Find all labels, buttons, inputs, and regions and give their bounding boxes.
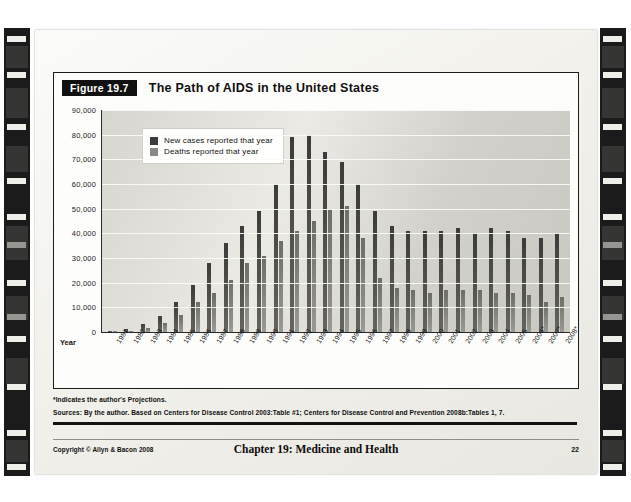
bar-group	[518, 110, 535, 332]
x-axis-tick: 1993	[302, 334, 319, 382]
bar-group	[502, 110, 519, 332]
film-sprocket	[603, 336, 622, 342]
film-texture	[6, 46, 28, 68]
figure-panel: Figure 19.7 The Path of AIDS in the Unit…	[53, 72, 579, 389]
x-axis-tick: 1989	[236, 334, 253, 382]
film-sprocket	[7, 36, 26, 42]
bar-new-cases	[224, 243, 228, 332]
film-sprocket	[7, 336, 26, 342]
film-sprocket	[603, 36, 622, 42]
film-sprocket	[7, 464, 26, 470]
y-axis-tick-label: 0	[92, 328, 96, 337]
x-axis-tick: 2008*	[551, 334, 568, 382]
y-axis-tick-label: 70,000	[72, 155, 96, 164]
legend-item: New cases reported that year	[150, 136, 273, 145]
x-axis-tick: 1998	[385, 334, 402, 382]
film-sprocket	[603, 214, 622, 220]
bar-deaths	[212, 293, 216, 332]
film-texture	[6, 226, 28, 260]
film-sprocket	[7, 280, 26, 286]
film-sprocket	[7, 384, 26, 390]
legend-item: Deaths reported that year	[150, 147, 273, 156]
legend-label: New cases reported that year	[164, 136, 273, 145]
film-sprocket	[7, 214, 26, 220]
bar-deaths	[461, 290, 465, 332]
bar-group	[320, 110, 337, 332]
bar-new-cases	[191, 285, 195, 332]
bar-group	[535, 110, 552, 332]
gridline	[102, 209, 570, 210]
screenshot-root: Figure 19.7 The Path of AIDS in the Unit…	[0, 0, 631, 502]
film-sprocket	[7, 124, 26, 130]
x-axis-tick: 1984	[153, 334, 170, 382]
footnote-projection: *Indicates the author's Projections.	[53, 394, 577, 407]
footnote-sources: Sources: By the author. Based on Centers…	[53, 407, 577, 420]
film-texture	[602, 88, 624, 118]
film-sprocket	[603, 430, 622, 436]
bar-deaths	[378, 278, 382, 332]
y-axis-tick-label: 60,000	[72, 180, 96, 189]
film-texture	[6, 296, 28, 320]
film-sprocket	[603, 464, 622, 470]
film-sprocket	[603, 124, 622, 130]
bar-deaths	[328, 209, 332, 332]
bar-new-cases	[423, 231, 427, 332]
film-texture	[602, 296, 624, 320]
bar-deaths	[245, 263, 249, 332]
film-texture	[602, 358, 624, 384]
gridline	[102, 159, 570, 160]
plot-wrapper: 90,00080,00070,00060,00050,00040,00030,0…	[54, 104, 578, 388]
x-axis-tick: 1999	[402, 334, 419, 382]
bar-new-cases	[439, 231, 443, 332]
bar-deaths	[494, 293, 498, 332]
figure-number-tag: Figure 19.7	[62, 80, 137, 97]
x-axis-tick: 1994	[319, 334, 336, 382]
bar-group	[336, 110, 353, 332]
film-texture	[6, 146, 28, 172]
gridline	[102, 184, 570, 185]
legend-swatch-new-cases	[150, 137, 158, 145]
bar-new-cases	[323, 152, 327, 332]
bar-new-cases	[522, 238, 526, 332]
bar-new-cases	[456, 228, 460, 332]
film-sprocket	[603, 384, 622, 390]
x-axis-tick: 2006*	[518, 334, 535, 382]
figure-header: Figure 19.7 The Path of AIDS in the Unit…	[54, 73, 578, 103]
x-axis-tick: 2004	[485, 334, 502, 382]
bar-deaths	[113, 331, 117, 332]
bar-deaths	[444, 290, 448, 332]
bar-new-cases	[506, 231, 510, 332]
film-texture	[602, 146, 624, 172]
bar-group	[369, 110, 386, 332]
y-axis-tick-label: 30,000	[72, 254, 96, 263]
bar-group	[419, 110, 436, 332]
film-texture	[6, 440, 28, 462]
bar-deaths	[411, 290, 415, 332]
bar-deaths	[129, 331, 133, 332]
x-axis-tick: 1988	[219, 334, 236, 382]
y-axis-tick-label: 50,000	[72, 204, 96, 213]
x-axis-tick: 1986	[186, 334, 203, 382]
bar-deaths	[511, 293, 515, 332]
bar-deaths	[527, 295, 531, 332]
y-axis-tick-label: 90,000	[72, 106, 96, 115]
film-sprocket	[603, 280, 622, 286]
y-axis-tick-label: 80,000	[72, 130, 96, 139]
bar-deaths	[345, 206, 349, 332]
presentation-slide: Figure 19.7 The Path of AIDS in the Unit…	[35, 30, 597, 474]
x-axis-title: Year	[60, 338, 76, 347]
bar-deaths	[395, 288, 399, 332]
legend-swatch-deaths	[150, 148, 158, 156]
film-texture	[602, 440, 624, 462]
x-axis-tick: 2000	[419, 334, 436, 382]
x-axis-tick: 1990	[252, 334, 269, 382]
gridline	[102, 307, 570, 308]
bar-deaths	[179, 315, 183, 332]
x-axis-tick: 2003	[468, 334, 485, 382]
gridline	[102, 110, 570, 111]
divider-rule	[53, 422, 577, 425]
filmstrip-right-border	[600, 28, 626, 476]
bar-group	[402, 110, 419, 332]
bar-group	[452, 110, 469, 332]
bar-group	[436, 110, 453, 332]
